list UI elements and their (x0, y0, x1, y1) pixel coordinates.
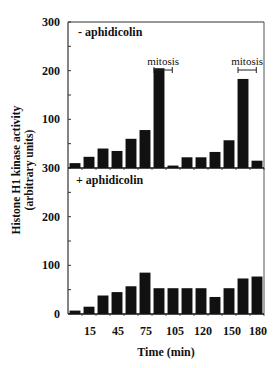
bar (140, 273, 151, 314)
mitosis-label: mitosis (231, 55, 263, 67)
y-axis-title: Histone H1 kinase activity (arbitrary un… (10, 105, 36, 234)
bar (224, 288, 235, 314)
bar (252, 161, 263, 168)
bar (168, 166, 179, 168)
bar (210, 297, 221, 314)
y-tick-label: 200 (42, 210, 60, 224)
x-tick-label: 15 (84, 324, 96, 338)
y-tick-labels: 3002001003002001000 (42, 15, 60, 321)
bar (196, 157, 207, 168)
bar (182, 157, 193, 168)
x-tick-label: 45 (112, 324, 124, 338)
top-panel-bars (70, 68, 263, 168)
x-tick-labels: 154575105120150180 (84, 324, 267, 338)
mitosis-annotations: mitosismitosis (147, 55, 263, 73)
x-tick-label: 180 (249, 324, 267, 338)
bar (126, 286, 137, 314)
bar (224, 140, 235, 168)
bottom-panel-bars (70, 273, 263, 314)
x-tick-label: 75 (140, 324, 152, 338)
bar (98, 296, 109, 314)
bar (112, 292, 123, 314)
mitosis-label: mitosis (147, 55, 179, 67)
bar (238, 278, 249, 314)
y-tick-label: 100 (42, 258, 60, 272)
bar (84, 307, 95, 314)
x-tick-label: 105 (166, 324, 184, 338)
x-tick-label: 150 (223, 324, 241, 338)
bar (140, 130, 151, 168)
bar (70, 311, 81, 314)
y-axis-title-line2: (arbitrary units) (23, 129, 36, 210)
x-axis-title: Time (min) (137, 345, 194, 359)
y-tick-label: 300 (42, 15, 60, 29)
bar (168, 288, 179, 314)
histone-kinase-figure: 3002001003002001000 154575105120150180 m… (0, 0, 280, 368)
bar (196, 288, 207, 314)
bar (210, 152, 221, 168)
bar (154, 68, 165, 168)
bar (238, 79, 249, 168)
y-tick-label: 100 (42, 112, 60, 126)
y-tick-label: 0 (54, 307, 60, 321)
bar (252, 277, 263, 314)
bar (98, 149, 109, 168)
bottom-panel-label: + aphidicolin (76, 173, 144, 187)
bar (112, 151, 123, 168)
bar (84, 157, 95, 168)
bar (182, 288, 193, 314)
bar-chart: 3002001003002001000 154575105120150180 m… (0, 0, 280, 368)
bar (70, 163, 81, 168)
y-tick-label: 200 (42, 64, 60, 78)
bar (126, 139, 137, 168)
y-axis-title-line1: Histone H1 kinase activity (10, 105, 23, 234)
top-panel-label: - aphidicolin (78, 25, 143, 39)
bar (154, 288, 165, 314)
y-tick-label: 300 (42, 161, 60, 175)
x-tick-label: 120 (194, 324, 212, 338)
